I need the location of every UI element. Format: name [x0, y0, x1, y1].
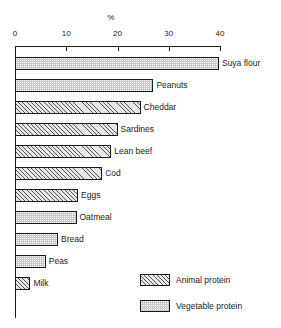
bar-label-cheddar: Cheddar: [144, 103, 177, 112]
bar-row: Peas: [15, 255, 68, 268]
bar-label-milk: Milk: [33, 279, 48, 288]
x-axis-unit-label: %: [107, 13, 114, 22]
bar-lean-beef: [15, 145, 111, 158]
bar-label-sardines: Sardines: [121, 125, 155, 134]
x-tick-label-10: 10: [62, 29, 71, 38]
bar-label-peanuts: Peanuts: [156, 81, 187, 90]
bar-row: Sardines: [15, 123, 154, 136]
bar-row: Bread: [15, 233, 84, 246]
bar-peas: [15, 255, 46, 268]
bar-cheddar: [15, 101, 141, 114]
legend-item-vegetable: Vegetable protein: [140, 300, 242, 312]
x-tick-mark: [66, 46, 67, 51]
bar-row: Milk: [15, 277, 48, 290]
bar-label-eggs: Eggs: [81, 191, 100, 200]
bar-label-bread: Bread: [61, 235, 84, 244]
bar-label-lean-beef: Lean beef: [114, 147, 152, 156]
bar-label-suya-flour: Suya flour: [222, 59, 260, 68]
bar-row: Cheddar: [15, 101, 176, 114]
x-tick-mark: [169, 46, 170, 51]
x-tick-mark: [220, 46, 221, 51]
bar-row: Eggs: [15, 189, 100, 202]
legend-label-animal: Animal protein: [176, 275, 230, 285]
bar-row: Oatmeal: [15, 211, 112, 224]
legend-swatch-vegetable: [140, 300, 170, 312]
bar-row: Lean beef: [15, 145, 152, 158]
bar-label-cod: Cod: [105, 169, 121, 178]
bar-cod: [15, 167, 102, 180]
x-tick-mark: [118, 46, 119, 51]
bar-row: Peanuts: [15, 79, 188, 92]
bar-row: Cod: [15, 167, 121, 180]
bar-label-oatmeal: Oatmeal: [80, 213, 112, 222]
bar-row: Suya flour: [15, 57, 260, 70]
bar-label-peas: Peas: [49, 257, 68, 266]
legend-item-animal: Animal protein: [140, 274, 230, 286]
x-tick-label-20: 20: [113, 29, 122, 38]
protein-content-bar-chart: % 010203040 Suya flourPeanutsCheddarSard…: [0, 0, 281, 328]
x-tick-label-40: 40: [216, 29, 225, 38]
x-tick-mark: [15, 46, 16, 51]
bar-peanuts: [15, 79, 153, 92]
legend-label-vegetable: Vegetable protein: [176, 301, 242, 311]
bar-milk: [15, 277, 30, 290]
x-tick-label-0: 0: [13, 29, 17, 38]
x-tick-label-30: 30: [164, 29, 173, 38]
legend-swatch-animal: [140, 274, 170, 286]
bar-sardines: [15, 123, 118, 136]
bar-oatmeal: [15, 211, 77, 224]
bar-eggs: [15, 189, 78, 202]
bar-bread: [15, 233, 58, 246]
bar-suya-flour: [15, 57, 219, 70]
